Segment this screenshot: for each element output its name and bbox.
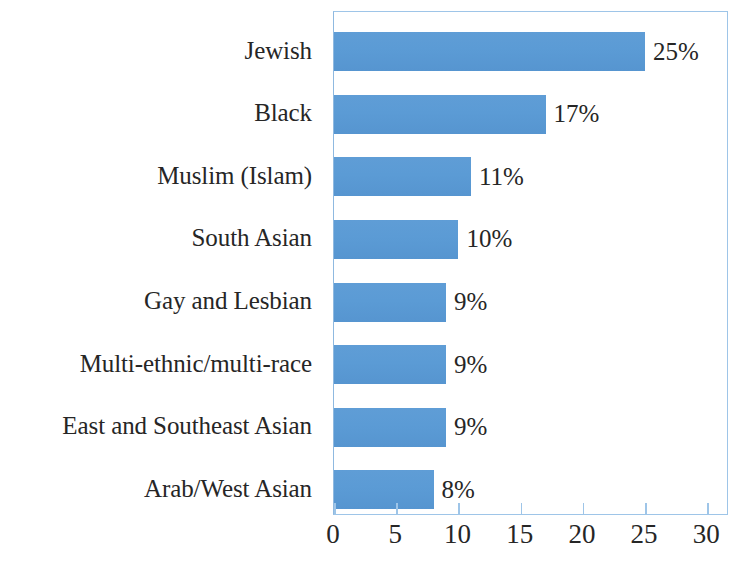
x-axis-tick-label: 30	[693, 521, 720, 548]
bar-value-label: 10%	[466, 226, 512, 251]
bar-value-label: 17%	[554, 101, 600, 126]
bar	[334, 408, 446, 447]
bar-value-label: 9%	[454, 414, 487, 439]
category-label: South Asian	[192, 225, 312, 250]
x-axis-tick	[521, 503, 523, 514]
bar	[334, 32, 645, 71]
category-label: Jewish	[245, 38, 312, 63]
bar	[334, 220, 458, 259]
x-axis-tick-label: 20	[568, 521, 595, 548]
category-label: Muslim (Islam)	[157, 163, 312, 188]
bar-value-label: 9%	[454, 352, 487, 377]
x-axis-tick	[645, 503, 647, 514]
x-axis-tick-label: 0	[326, 521, 340, 548]
x-axis-tick-label: 15	[506, 521, 533, 548]
category-axis-labels: Jewish Black Muslim (Islam) South Asian …	[0, 11, 326, 515]
category-label: Multi-ethnic/multi-race	[80, 351, 312, 376]
category-label: Gay and Lesbian	[144, 288, 312, 313]
x-axis-tick-label: 25	[631, 521, 658, 548]
plot-area: 25% 17% 11% 10% 9% 9% 9% 8%	[333, 11, 728, 515]
bar-value-label: 25%	[653, 39, 699, 64]
category-label: East and Southeast Asian	[62, 413, 312, 438]
bar	[334, 470, 434, 509]
bar-chart: Jewish Black Muslim (Islam) South Asian …	[0, 0, 739, 567]
x-axis-tick	[707, 503, 709, 514]
bar-value-label: 11%	[479, 164, 524, 189]
bar-value-label: 9%	[454, 289, 487, 314]
bar	[334, 283, 446, 322]
x-axis-tick	[334, 503, 336, 514]
x-axis-tick-labels: 0 5 10 15 20 25 30	[333, 521, 728, 561]
bar-value-label: 8%	[442, 477, 475, 502]
x-axis-tick-label: 5	[388, 521, 402, 548]
x-axis-tick	[458, 503, 460, 514]
category-label: Black	[254, 100, 312, 125]
bar	[334, 157, 471, 196]
category-label: Arab/West Asian	[144, 476, 312, 501]
x-axis-tick-label: 10	[444, 521, 471, 548]
x-axis-tick	[396, 503, 398, 514]
x-axis-tick	[583, 503, 585, 514]
bar	[334, 95, 546, 134]
bar	[334, 345, 446, 384]
